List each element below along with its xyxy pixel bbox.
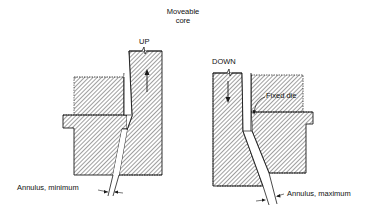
title-line-2: core [163, 16, 203, 25]
annulus-minimum-label: Annulus, minimum [17, 184, 79, 192]
die-diagram [0, 0, 379, 213]
annulus-maximum-label: Annulus, maximum [287, 190, 351, 198]
down-label: DOWN [212, 58, 236, 66]
up-label: UP [139, 38, 149, 46]
fixed-die-label: Fixed die [266, 92, 296, 100]
moveable-core-title: Moveable core [163, 7, 203, 26]
left-panel [63, 47, 162, 196]
annulus-minimum-dimension [98, 190, 123, 194]
title-line-1: Moveable [163, 7, 203, 16]
right-panel [213, 69, 313, 205]
left-fixed-die-upper [74, 77, 124, 115]
